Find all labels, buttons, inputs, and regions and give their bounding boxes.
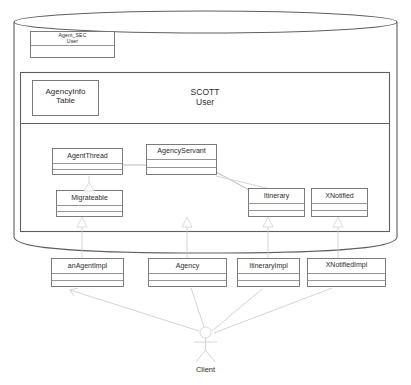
assoc-client-anagentimpl — [70, 288, 199, 331]
class-box-xnotified[interactable] — [312, 189, 368, 217]
uml-deployment-diagram: .s { fill:none; stroke:#8a8a8a; stroke-w… — [0, 0, 411, 385]
diagram-canvas: .s { fill:none; stroke:#8a8a8a; stroke-w… — [0, 0, 411, 385]
assoc-client-xnotifiedimpl — [214, 288, 332, 333]
class-box-agencyservant[interactable] — [147, 145, 217, 175]
generalization-agency-agencyservant — [182, 217, 192, 258]
actor-stick-figure-icon[interactable] — [194, 327, 217, 362]
class-box-anagentimpl[interactable] — [52, 259, 124, 287]
generalization-xnotifiedimpl-xnotified — [333, 217, 343, 258]
generalization-marker-migrateable — [84, 176, 94, 191]
agent-sec-schema-box[interactable] — [31, 32, 115, 58]
class-box-itinerary[interactable] — [249, 189, 305, 217]
assoc-client-agency — [191, 288, 204, 327]
generalization-anagentimpl-migrateable — [77, 217, 87, 258]
generalization-itineraryimpl-itinerary — [263, 217, 273, 258]
class-box-agentthread[interactable] — [53, 149, 123, 175]
class-box-xnotifiedimpl[interactable] — [308, 259, 386, 287]
class-box-itineraryimpl[interactable] — [238, 259, 300, 287]
agencyinfo-table-box[interactable] — [33, 81, 99, 116]
class-box-agency[interactable] — [149, 259, 227, 287]
assoc-client-itineraryimpl — [212, 289, 262, 331]
class-box-migrateable[interactable] — [57, 191, 123, 217]
